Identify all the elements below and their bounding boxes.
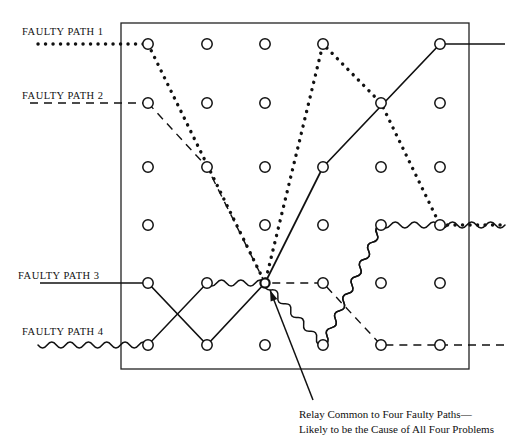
common-relay-node[interactable] (260, 278, 269, 287)
faulty-path-4-node (143, 340, 153, 350)
relay-node (143, 162, 153, 172)
relay-node (376, 278, 386, 288)
faulty-path-2-node (202, 162, 212, 172)
relay-node (435, 162, 445, 172)
faulty-path-2-node (376, 340, 386, 350)
faulty-path-1-node (376, 98, 386, 108)
callout-arrow-layer (270, 290, 313, 400)
relay-node (260, 98, 270, 108)
faulty-paths-diagram (0, 0, 509, 446)
faulty-path-4-node (376, 220, 386, 230)
faulty-path-1-segment (148, 44, 440, 283)
faulty-path-1-node (318, 39, 328, 49)
relay-node (260, 39, 270, 49)
common-relay-layer (260, 278, 269, 287)
faulty-path-3-node (435, 39, 445, 49)
diagram-page: FAULTY PATH 1 FAULTY PATH 2 FAULTY PATH … (0, 0, 509, 446)
relay-node (202, 98, 212, 108)
faulty-path-1-node (435, 220, 445, 230)
relay-node (202, 39, 212, 49)
faulty-path-4-riser-segment (323, 225, 381, 345)
faulty-path-4-node (318, 340, 328, 350)
faulty-path-4-node (202, 278, 212, 288)
relay-node (435, 98, 445, 108)
faulty-path-2-node (318, 278, 328, 288)
relay-node (318, 220, 328, 230)
relay-node (260, 220, 270, 230)
faulty-path-1-node (143, 39, 153, 49)
faulty-path-1-label: FAULTY PATH 1 (22, 26, 104, 37)
callout-caption: Relay Common to Four Faulty Paths— Likel… (299, 407, 494, 436)
relay-node (143, 220, 153, 230)
faulty-path-3-node (318, 162, 328, 172)
relay-node (376, 162, 386, 172)
callout-caption-line-2: Likely to be the Cause of All Four Probl… (299, 422, 494, 437)
relay-node (260, 162, 270, 172)
faulty-path-4-segment (207, 225, 381, 345)
faulty-path-2-node (143, 98, 153, 108)
faulty-path-4-label: FAULTY PATH 4 (22, 326, 104, 337)
faulty-path-4-segment (38, 342, 148, 348)
callout-arrow-line (270, 290, 313, 400)
callout-caption-line-1: Relay Common to Four Faulty Paths— (299, 407, 494, 422)
relay-node (435, 278, 445, 288)
faulty-path-2-node (435, 340, 445, 350)
relay-node (260, 340, 270, 350)
faulty-path-2-label: FAULTY PATH 2 (22, 90, 104, 101)
faulty-path-3-node (143, 278, 153, 288)
faulty-path-3-node (202, 340, 212, 350)
faulty-path-3-label: FAULTY PATH 3 (18, 270, 100, 281)
